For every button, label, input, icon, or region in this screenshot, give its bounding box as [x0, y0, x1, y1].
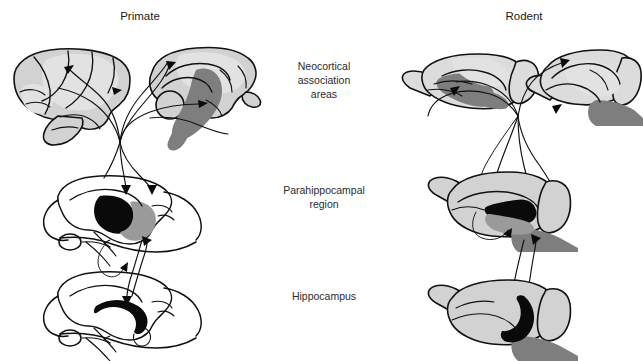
row-label-hippocampus: Hippocampus [292, 290, 356, 302]
row-label-neocortical-line1: Neocortical [298, 60, 351, 72]
row-label-parahippocampal-line1: Parahippocampal [283, 184, 365, 196]
row-label-parahippocampal-line2: region [309, 198, 338, 210]
column-title-rodent: Rodent [505, 10, 543, 22]
row-label-neocortical-line3: areas [311, 88, 337, 100]
column-title-primate: Primate [120, 10, 160, 22]
brain-connectivity-diagram: Primate Rodent Neocortical association a… [0, 0, 643, 361]
row-label-neocortical-line2: association [298, 74, 351, 86]
